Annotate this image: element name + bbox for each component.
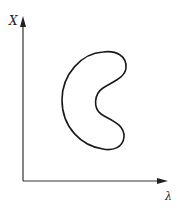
- y-axis-label: X: [9, 15, 18, 27]
- x-axis: [23, 178, 168, 184]
- kidney-curve: [62, 52, 126, 150]
- x-axis-arrow-icon: [157, 178, 168, 184]
- y-axis: [20, 16, 26, 181]
- diagram-canvas: [0, 0, 183, 208]
- y-axis-arrow-icon: [20, 16, 26, 27]
- x-axis-label: λ: [165, 191, 172, 203]
